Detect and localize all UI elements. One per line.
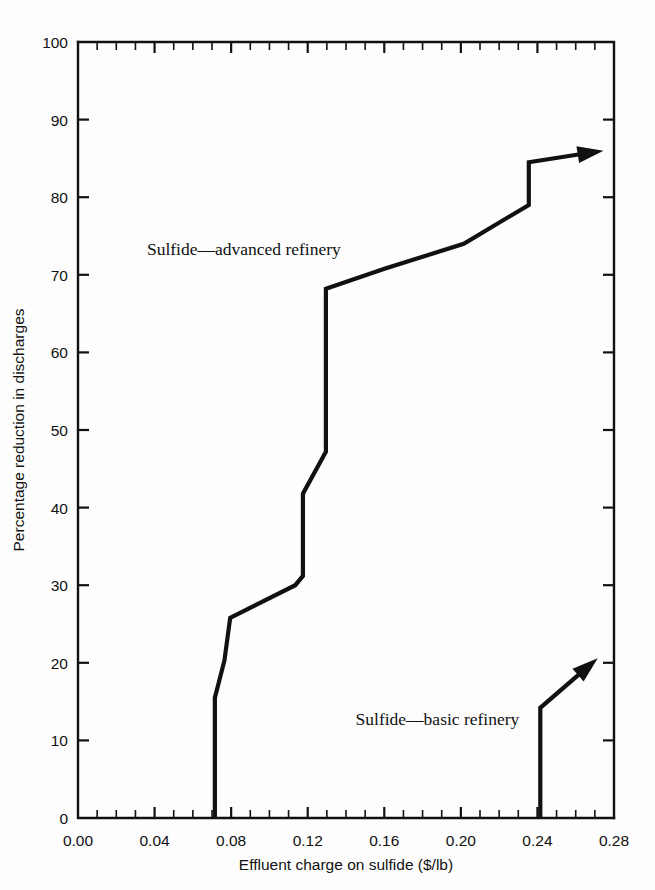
arrow-head-advanced-refinery bbox=[576, 146, 603, 163]
y-axis-tick-label: 30 bbox=[51, 577, 69, 594]
annotation-advanced-refinery: Sulfide—advanced refinery bbox=[147, 239, 341, 259]
axis-frame-left-bottom bbox=[78, 42, 614, 818]
x-axis-tick-label: 0.00 bbox=[63, 832, 94, 849]
x-axis-tick-label: 0.24 bbox=[522, 832, 553, 849]
x-axis-tick-label: 0.12 bbox=[293, 832, 323, 849]
figure-canvas: 0.000.040.080.120.160.200.240.2801020304… bbox=[0, 0, 655, 890]
y-axis-tick-label: 70 bbox=[51, 267, 69, 284]
y-axis-tick-label: 80 bbox=[51, 189, 69, 206]
x-axis-title-text: Effluent charge on sulfide ($/lb) bbox=[239, 856, 453, 873]
y-axis-tick-label: 10 bbox=[51, 732, 69, 749]
y-axis-tick-label: 100 bbox=[42, 34, 68, 51]
y-axis-tick-label: 50 bbox=[51, 422, 69, 439]
data-line-basic-refinery bbox=[540, 667, 587, 818]
x-axis-tick-label: 0.28 bbox=[599, 832, 629, 849]
y-axis-tick-label: 40 bbox=[51, 500, 69, 517]
axis-frame-top-right bbox=[78, 42, 614, 818]
y-axis-title-text: Percentage reduction in discharges bbox=[10, 308, 27, 551]
x-axis-tick-label: 0.16 bbox=[369, 832, 399, 849]
y-axis-tick-label: 20 bbox=[51, 655, 69, 672]
chart-plot: 0.000.040.080.120.160.200.240.2801020304… bbox=[0, 0, 655, 890]
y-axis-tick-label: 0 bbox=[59, 810, 68, 827]
x-axis-tick-label: 0.20 bbox=[446, 832, 477, 849]
x-axis-tick-label: 0.08 bbox=[216, 832, 246, 849]
y-axis-tick-label: 60 bbox=[51, 344, 69, 361]
annotation-basic-refinery: Sulfide—basic refinery bbox=[356, 709, 520, 729]
y-axis-tick-label: 90 bbox=[51, 112, 69, 129]
x-axis-tick-label: 0.04 bbox=[139, 832, 170, 849]
